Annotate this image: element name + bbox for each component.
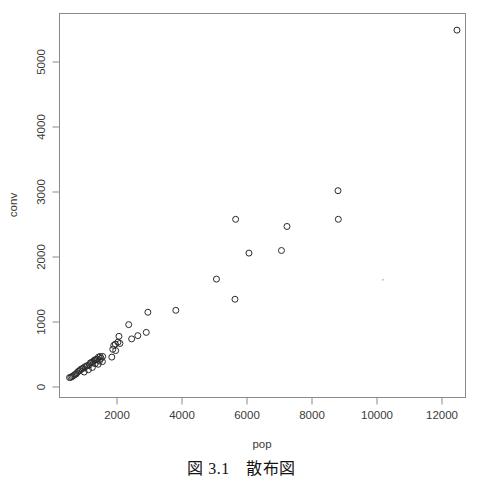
data-point (129, 336, 135, 342)
data-point (278, 248, 284, 254)
scatter-plot-svg: 20004000600080001000012000 0100020003000… (0, 0, 483, 460)
stray-speck (382, 279, 384, 281)
data-point (335, 216, 341, 222)
data-point (143, 329, 149, 335)
data-point (126, 322, 132, 328)
data-point (135, 333, 141, 339)
data-point (246, 250, 252, 256)
x-axis-ticks: 20004000600080001000012000 (104, 398, 458, 422)
data-points (67, 27, 460, 380)
data-point (173, 307, 179, 313)
stray-specks (382, 279, 384, 281)
x-axis-title: pop (252, 438, 271, 450)
x-tick-label: 10000 (361, 409, 393, 421)
figure-page: 20004000600080001000012000 0100020003000… (0, 0, 483, 492)
x-tick-label: 8000 (299, 409, 325, 421)
data-point (454, 27, 460, 33)
y-axis-ticks: 010002000300040005000 (35, 49, 60, 390)
data-point (232, 296, 238, 302)
scatter-plot-figure: 20004000600080001000012000 0100020003000… (0, 0, 483, 460)
x-tick-label: 6000 (234, 409, 260, 421)
y-tick-label: 4000 (35, 114, 47, 140)
data-point (145, 309, 151, 315)
y-tick-label: 2000 (35, 244, 47, 270)
data-point (213, 276, 219, 282)
y-axis-title: conv (7, 193, 19, 218)
y-tick-label: 0 (35, 384, 47, 390)
data-point (116, 333, 122, 339)
data-point (335, 188, 341, 194)
y-tick-label: 3000 (35, 179, 47, 205)
y-tick-label: 1000 (35, 309, 47, 335)
data-point (109, 354, 115, 360)
x-tick-label: 2000 (104, 409, 130, 421)
x-tick-label: 4000 (169, 409, 195, 421)
figure-caption: 図 3.1 散布図 (0, 455, 483, 479)
data-point (284, 223, 290, 229)
y-tick-label: 5000 (35, 49, 47, 75)
data-point (233, 216, 239, 222)
x-tick-label: 12000 (426, 409, 458, 421)
